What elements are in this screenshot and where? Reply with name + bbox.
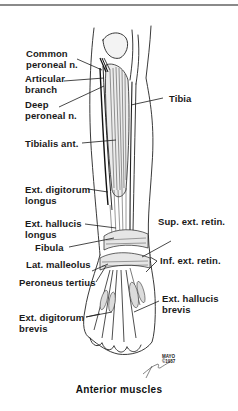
figure-caption: Anterior muscles — [0, 384, 238, 395]
label-tibialis-anterior: Tibialis ant. — [25, 138, 78, 149]
label-line: longus — [25, 195, 90, 206]
label-ext-hallucis-longus: Ext. hallucis longus — [25, 218, 82, 240]
label-line: brevis — [162, 304, 219, 315]
label-deep-peroneal-nerve: Deep peroneal n. — [25, 99, 77, 121]
label-line: Deep — [25, 99, 77, 110]
label-articular-branch: Articular branch — [25, 73, 65, 95]
label-peroneus-tertius: Peroneus tertius — [19, 277, 96, 288]
label-line: Ext. digitorum — [19, 312, 84, 323]
label-line: brevis — [19, 323, 84, 334]
label-ext-digitorum-brevis: Ext. digitorum brevis — [19, 312, 84, 334]
label-line: branch — [25, 84, 65, 95]
label-line: Articular — [25, 73, 65, 84]
label-ext-digitorum-longus: Ext. digitorum longus — [25, 184, 90, 206]
label-fibula: Fibula — [35, 242, 64, 253]
label-line: Common — [26, 48, 78, 59]
label-line: Ext. hallucis — [162, 293, 219, 304]
label-lateral-malleolus: Lat. malleolus — [26, 259, 91, 270]
label-tibia: Tibia — [169, 93, 192, 104]
label-line: peroneal n. — [26, 59, 78, 70]
copyright-line: ©1987 — [162, 359, 175, 364]
label-inf-ext-retinaculum: Inf. ext. retin. — [160, 255, 221, 266]
label-line: Ext. hallucis — [25, 218, 82, 229]
label-sup-ext-retinaculum: Sup. ext. retin. — [158, 216, 225, 227]
label-ext-hallucis-brevis: Ext. hallucis brevis — [162, 293, 219, 315]
label-common-peroneal-nerve: Common peroneal n. — [26, 48, 78, 70]
label-line: longus — [25, 229, 82, 240]
label-line: peroneal n. — [25, 110, 77, 121]
copyright-mark: MAYO ©1987 — [162, 354, 175, 364]
label-line: Ext. digitorum — [25, 184, 90, 195]
